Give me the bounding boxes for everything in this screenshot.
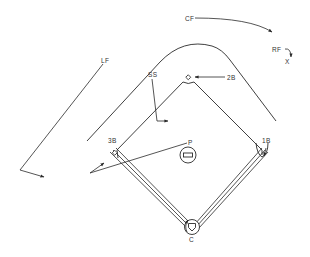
baseball-field-diagram: LF CF RF X SS 2B 3B 1B P C bbox=[0, 0, 310, 257]
pitcher-rubber-icon bbox=[184, 153, 193, 157]
first-base-line-inner bbox=[197, 150, 265, 226]
label-3b: 3B bbox=[108, 137, 117, 144]
right-fielder-arrow bbox=[285, 49, 291, 57]
first-base-line bbox=[199, 152, 268, 228]
label-p: P bbox=[188, 139, 193, 146]
first-base-line-inner-2 bbox=[195, 148, 262, 224]
infield-line-left bbox=[117, 82, 262, 158]
label-x: X bbox=[285, 58, 290, 65]
label-c: C bbox=[189, 236, 194, 243]
label-ss: SS bbox=[148, 71, 158, 78]
outfield-boundary bbox=[87, 44, 276, 141]
label-2b: 2B bbox=[227, 74, 236, 81]
left-fielder-arrow bbox=[20, 64, 103, 177]
label-lf: LF bbox=[101, 57, 109, 64]
label-1b: 1B bbox=[262, 137, 271, 144]
label-rf: RF bbox=[272, 46, 281, 53]
pitcher-backup-line bbox=[90, 143, 187, 173]
third-base-line-inner bbox=[113, 150, 189, 226]
second-base-icon bbox=[186, 75, 191, 80]
third-base-line-inner-2 bbox=[116, 148, 191, 224]
center-fielder-arrow bbox=[195, 18, 272, 32]
label-cf: CF bbox=[185, 15, 194, 22]
pitcher-backup-arrow bbox=[90, 163, 104, 173]
